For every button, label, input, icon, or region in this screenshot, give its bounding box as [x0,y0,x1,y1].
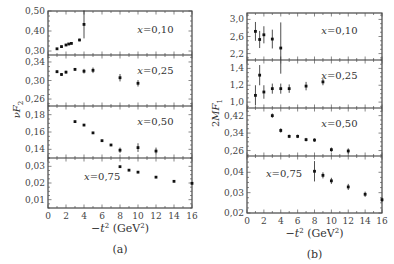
panel-label: x=0,50 [137,116,173,127]
x-tick-label: 14 [359,216,371,226]
y-tick-label: 0,03 [224,188,244,198]
panel-label: x=0,50 [321,118,357,129]
panel-label: x=0,75 [84,171,120,182]
panel-075: 0,020,030,04x=0,75 [224,156,383,218]
panel-010: 2,22,63,0x=0,10 [230,13,382,74]
data-point [313,139,316,142]
data-point [258,74,261,77]
data-point [83,23,86,26]
data-point [271,38,274,41]
data-point [279,129,282,132]
y-tick-label: 3,0 [230,14,245,24]
x-tick-label: 4 [278,216,284,226]
data-point [101,139,104,142]
panel-050: 0,260,340,42x=0,50 [224,108,382,156]
data-point [191,182,194,185]
data-point [322,80,325,83]
y-tick-label: 0,18 [25,110,45,120]
x-tick-label: 14 [168,211,180,221]
y-axis-label: νF2 [11,101,25,119]
x-tick-label: 10 [326,216,338,226]
data-point [381,198,384,201]
y-tick-label: 0,02 [224,208,244,218]
y-tick-label: 0,30 [25,46,45,56]
data-point [67,43,70,46]
x-tick-label: 16 [186,211,198,221]
plot-frame [247,13,382,213]
panel-label: x=0,10 [321,25,357,36]
data-point [155,176,158,179]
data-point [271,114,274,117]
y-tick-label: 1,2 [230,80,244,90]
panel-050: 0,140,160,18x=0,50 [25,106,192,158]
data-point [155,150,158,153]
x-tick-label: 0 [244,216,250,226]
data-point [364,193,367,196]
data-point [313,170,316,173]
data-point [83,124,86,127]
panel-label: x=0,25 [137,65,173,76]
data-point [305,138,308,141]
data-point [60,45,63,48]
data-point [258,38,261,41]
y-tick-label: 0,50 [25,6,45,16]
data-point [279,87,282,90]
data-point [92,69,95,72]
data-point [137,146,140,149]
data-point [271,87,274,90]
y-tick-label: 0,26 [25,94,45,104]
data-point [56,70,59,73]
data-point [74,120,77,123]
data-point [74,68,77,71]
y-tick-label: 0,34 [224,128,244,138]
data-point [119,76,122,79]
data-point [305,85,308,88]
panel-label: x=0,10 [137,24,173,35]
x-tick-label: 12 [150,211,161,221]
data-point [78,39,81,42]
x-tick-label: 2 [63,211,69,221]
panel-010: 0,300,400,50x=0,10 [25,6,192,56]
x-tick-label: 10 [132,211,144,221]
panel-025: 1,01,21,4x=0,25 [230,60,382,108]
data-point [128,169,131,172]
y-tick-label: 0,14 [25,144,45,154]
y-tick-label: 1,0 [230,97,245,107]
data-point [262,33,265,36]
data-point [330,179,333,182]
y-tick-label: 0,30 [25,76,45,86]
chart-b: 2,22,63,0x=0,101,01,21,4x=0,250,260,340,… [210,13,388,261]
y-tick-label: 0,42 [224,111,244,121]
panel-025: 0,260,300,34x=0,25 [25,55,192,106]
y-tick-label: 0,02 [25,178,45,188]
data-point [254,30,257,33]
x-tick-label: 4 [81,211,87,221]
y-tick-label: 0,01 [25,195,45,205]
x-tick-label: 2 [261,216,267,226]
data-point [137,171,140,174]
y-axis-label: 2MF1 [210,99,224,127]
x-tick-label: 8 [312,216,318,226]
chart-a: 0,300,400,50x=0,100,260,300,34x=0,250,14… [11,6,198,256]
data-point [262,91,265,94]
data-point [288,135,291,138]
data-point [173,180,176,183]
data-point [254,94,257,97]
x-tick-label: 8 [117,211,123,221]
panel-label: x=0,75 [266,168,302,179]
y-tick-label: 1,4 [230,63,245,73]
data-point [296,135,299,138]
x-axis-label: −t2 (GeV2) [286,227,344,240]
y-tick-label: 0,34 [25,57,45,67]
panel-075: 0,010,020,03x=0,75 [25,158,193,208]
x-tick-label: 6 [99,211,105,221]
data-point [65,44,68,47]
data-point [83,70,86,73]
figure-caption: (b) [307,248,323,261]
data-point [56,47,59,50]
data-point [70,42,73,45]
data-point [330,148,333,151]
x-tick-label: 12 [343,216,354,226]
data-point [137,82,140,85]
data-point [60,73,63,76]
